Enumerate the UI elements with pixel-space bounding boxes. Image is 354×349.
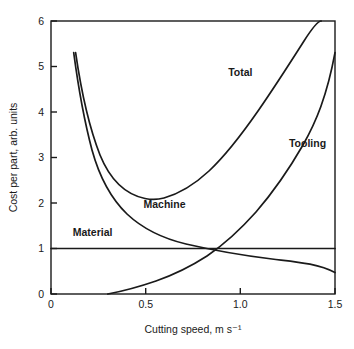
series-label-material: Material xyxy=(73,226,113,238)
y-tick-label-0: 0 xyxy=(38,288,44,300)
x-axis-ticks xyxy=(51,288,335,294)
cost-per-part-chart: 0 1 2 3 4 5 6 0 0.5 1.0 1.5 xyxy=(0,0,354,349)
y-tick-label-3: 3 xyxy=(38,151,44,163)
x-axis-tick-labels: 0 0.5 1.0 1.5 xyxy=(48,298,342,310)
y-tick-label-5: 5 xyxy=(38,60,44,72)
y-axis-tick-labels: 0 1 2 3 4 5 6 xyxy=(38,15,44,300)
y-tick-label-4: 4 xyxy=(38,106,44,118)
y-tick-label-2: 2 xyxy=(38,197,44,209)
series-label-total: Total xyxy=(228,66,252,78)
x-tick-label-0: 0 xyxy=(48,298,54,310)
series-label-machine: Machine xyxy=(143,198,185,210)
y-axis-title: Cost per part, arb. units xyxy=(7,103,19,213)
chart-svg: 0 1 2 3 4 5 6 0 0.5 1.0 1.5 xyxy=(0,0,354,349)
x-tick-label-1: 0.5 xyxy=(138,298,153,310)
x-tick-label-3: 1.5 xyxy=(328,298,343,310)
series-label-tooling: Tooling xyxy=(289,137,326,149)
series-total-line xyxy=(76,21,322,199)
y-tick-label-6: 6 xyxy=(38,15,44,27)
y-tick-label-1: 1 xyxy=(38,242,44,254)
x-axis-title: Cutting speed, m s⁻¹ xyxy=(144,323,242,335)
y-axis-ticks xyxy=(51,21,57,294)
x-tick-label-2: 1.0 xyxy=(233,298,248,310)
series-tooling-line xyxy=(108,53,335,294)
series-machine-line xyxy=(74,53,335,273)
